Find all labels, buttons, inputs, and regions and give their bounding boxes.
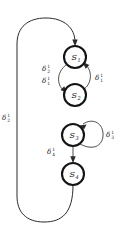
node-s2[interactable]: S 2 xyxy=(64,84,86,106)
edge-outer-return-path xyxy=(17,18,75,222)
node-s1[interactable]: S 1 xyxy=(64,46,86,68)
edge-label-s3-self-loop-sup: 1 xyxy=(111,130,114,135)
edge-label-s3-to-s4-delta: δ xyxy=(47,148,51,156)
edge-label-s3-to-s4: δ 4 1 xyxy=(47,147,55,158)
edge-label-s1-to-s2: δ 2 1 xyxy=(42,64,50,75)
edge-s2-to-s1-path xyxy=(83,64,90,90)
edge-label-s1-to-s2-sub: 2 xyxy=(47,69,50,74)
edge-label-s3-self-loop-sub: 3 xyxy=(111,135,114,140)
edge-label-s2-to-s1-sup: 1 xyxy=(100,73,103,78)
edge-label-s1-to-s2-b-sup: 1 xyxy=(47,76,50,81)
edge-label-s1-to-s2-b-sub: 1 xyxy=(47,81,50,86)
node-s2-index: 2 xyxy=(76,95,80,101)
edge-s1-to-s2-path xyxy=(59,65,66,91)
edge-s2-to-s1 xyxy=(82,62,90,90)
edge-label-s1-to-s2-b-delta: δ xyxy=(42,77,46,85)
edge-label-outer-return-sub: 2 xyxy=(7,118,10,123)
node-s3[interactable]: S 3 xyxy=(62,124,84,146)
node-s4-index: 4 xyxy=(74,174,78,180)
diagram-canvas: S 1 S 2 S 3 S 4 δ 2 1 δ 1 1 xyxy=(0,0,127,230)
state-transition-diagram: S 1 S 2 S 3 S 4 δ 2 1 δ 1 1 xyxy=(0,0,127,230)
edge-label-s3-to-s4-sub: 4 xyxy=(52,152,55,157)
edge-label-s2-to-s1-sub: 1 xyxy=(100,78,103,83)
node-s1-index: 1 xyxy=(77,57,80,63)
edge-label-s2-to-s1-delta: δ xyxy=(95,74,99,82)
edge-label-outer-return-delta: δ xyxy=(2,114,6,122)
edge-label-s2-to-s1: δ 1 1 xyxy=(95,73,103,84)
node-s3-index: 3 xyxy=(75,135,78,141)
edge-label-outer-return: δ 2 1 xyxy=(2,113,10,124)
edge-s3-to-s4 xyxy=(70,146,75,163)
edge-label-s1-to-s2-b: δ 1 1 xyxy=(42,76,50,87)
edge-label-s3-self-loop: δ 3 1 xyxy=(106,130,114,141)
edge-label-outer-return-sup: 1 xyxy=(7,113,10,118)
edge-label-s3-self-loop-delta: δ xyxy=(106,131,110,139)
edge-label-s3-to-s4-sup: 1 xyxy=(52,147,55,152)
edge-label-s1-to-s2-delta: δ xyxy=(42,65,46,73)
edge-label-s1-to-s2-sup: 1 xyxy=(47,64,50,69)
node-s4[interactable]: S 4 xyxy=(62,163,84,185)
